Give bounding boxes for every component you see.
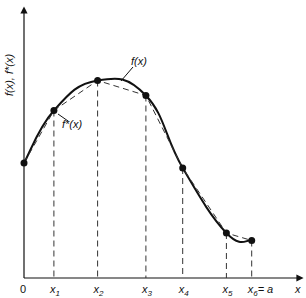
y-axis-label: f(x), f*(x) <box>3 54 15 96</box>
f-star-label: f*(x) <box>62 118 83 130</box>
origin-label: 0 <box>20 283 26 295</box>
f-curve-leader <box>121 67 133 81</box>
node-point-6 <box>248 237 255 244</box>
node-point-0 <box>21 160 28 167</box>
node-point-4 <box>179 165 186 172</box>
figure: f(x) f*(x) f(x), f*(x) 0 x x1x2x3x4x5x6=… <box>0 0 306 298</box>
tick-label-x2: x2 <box>93 283 105 298</box>
f-curve-label: f(x) <box>131 55 147 67</box>
f-curve <box>24 79 252 243</box>
tick-label-x5: x5 <box>221 283 233 298</box>
tick-label-x6: x6= a <box>247 283 274 298</box>
tick-label-x3: x3 <box>141 283 153 298</box>
node-point-3 <box>142 92 149 99</box>
x-axis-label: x <box>294 283 301 295</box>
tick-label-x1: x1 <box>49 283 60 298</box>
node-point-5 <box>223 230 230 237</box>
tick-label-x4: x4 <box>178 283 190 298</box>
plot-area: f(x) f*(x) f(x), f*(x) 0 x x1x2x3x4x5x6=… <box>0 0 306 298</box>
node-point-1 <box>50 107 57 114</box>
node-point-2 <box>94 77 101 84</box>
